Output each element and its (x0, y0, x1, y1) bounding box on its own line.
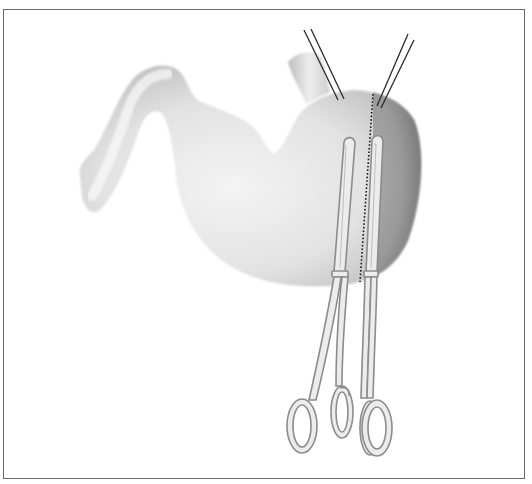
esophagus (288, 52, 330, 104)
stomach-clamp-illustration (0, 0, 532, 484)
